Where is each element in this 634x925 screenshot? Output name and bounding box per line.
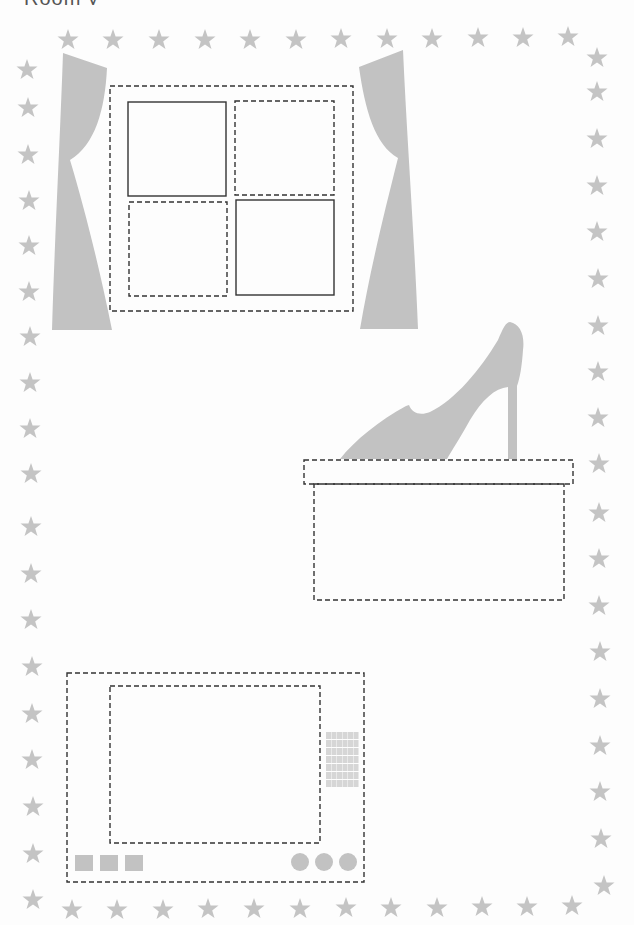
- shoe-box-drawing: [304, 460, 573, 600]
- star-icon: [590, 641, 611, 661]
- star-icon: [21, 463, 42, 483]
- grille-cell: [354, 740, 359, 747]
- grille-cell: [343, 732, 348, 739]
- grille-cell: [326, 740, 331, 747]
- window-drawing: [110, 86, 353, 311]
- star-icon: [19, 190, 40, 210]
- grille-cell: [343, 764, 348, 771]
- star-icon: [594, 875, 615, 895]
- star-icon: [589, 595, 610, 615]
- grille-cell: [332, 748, 337, 755]
- grille-cell: [337, 756, 342, 763]
- grille-cell: [354, 732, 359, 739]
- star-icon: [589, 548, 610, 568]
- star-icon: [23, 843, 44, 863]
- star-icon: [18, 144, 39, 164]
- grille-cell: [337, 772, 342, 779]
- grille-cell: [343, 780, 348, 787]
- grille-cell: [348, 732, 353, 739]
- star-icon: [22, 656, 43, 676]
- grille-cell: [354, 772, 359, 779]
- star-icon: [58, 29, 79, 49]
- high-heel-shoe-icon: [340, 322, 523, 459]
- star-icon: [21, 516, 42, 536]
- grille-cell: [348, 764, 353, 771]
- star-icon: [468, 27, 489, 47]
- star-icon: [422, 28, 443, 48]
- star-icon: [587, 128, 608, 148]
- grille-cell: [354, 748, 359, 755]
- grille-cell: [348, 772, 353, 779]
- tv-knob-icon: [339, 853, 357, 871]
- left-curtain-icon: [52, 53, 112, 330]
- star-icon: [149, 29, 170, 49]
- star-icon: [590, 735, 611, 755]
- window-pane-bottom-left: [129, 202, 227, 296]
- grille-cell: [337, 748, 342, 755]
- star-icon: [240, 29, 261, 49]
- star-icon: [103, 29, 124, 49]
- grille-cell: [332, 772, 337, 779]
- star-icon: [588, 361, 609, 381]
- grille-cell: [343, 772, 348, 779]
- star-icon: [558, 26, 579, 46]
- star-icon: [22, 703, 43, 723]
- grille-cell: [343, 740, 348, 747]
- grille-cell: [326, 780, 331, 787]
- television-drawing: [67, 673, 364, 882]
- star-icon: [589, 453, 610, 473]
- star-icon: [290, 898, 311, 918]
- worksheet-page: Room y: [0, 0, 634, 925]
- star-icon: [244, 898, 265, 918]
- star-icon: [19, 235, 40, 255]
- star-icon: [18, 97, 39, 117]
- grille-cell: [348, 756, 353, 763]
- right-curtain-icon: [359, 50, 418, 329]
- star-icon: [472, 896, 493, 916]
- tv-screen: [110, 686, 320, 843]
- star-icon: [198, 898, 219, 918]
- star-border: [17, 26, 615, 919]
- star-icon: [377, 28, 398, 48]
- grille-cell: [354, 780, 359, 787]
- star-icon: [513, 27, 534, 47]
- star-icon: [22, 749, 43, 769]
- grille-cell: [343, 748, 348, 755]
- tv-square-button-icon: [100, 855, 118, 871]
- star-icon: [381, 897, 402, 917]
- grille-cell: [326, 764, 331, 771]
- star-icon: [286, 29, 307, 49]
- star-icon: [195, 29, 216, 49]
- star-icon: [21, 563, 42, 583]
- grille-cell: [337, 780, 342, 787]
- star-icon: [23, 889, 44, 909]
- grille-cell: [326, 756, 331, 763]
- star-icon: [517, 896, 538, 916]
- grille-cell: [354, 756, 359, 763]
- star-icon: [588, 315, 609, 335]
- window-frame: [110, 86, 353, 311]
- star-icon: [587, 47, 608, 67]
- worksheet-scene: [0, 0, 634, 925]
- star-icon: [19, 281, 40, 301]
- speaker-grille: [326, 732, 359, 787]
- grille-cell: [348, 740, 353, 747]
- star-icon: [588, 407, 609, 427]
- grille-cell: [348, 748, 353, 755]
- star-icon: [153, 899, 174, 919]
- star-icon: [20, 418, 41, 438]
- star-icon: [590, 688, 611, 708]
- grille-cell: [326, 772, 331, 779]
- grille-cell: [332, 740, 337, 747]
- star-icon: [62, 899, 83, 919]
- grille-cell: [337, 764, 342, 771]
- grille-cell: [326, 748, 331, 755]
- grille-cell: [332, 780, 337, 787]
- grille-cell: [337, 732, 342, 739]
- star-icon: [589, 502, 610, 522]
- star-icon: [331, 28, 352, 48]
- grille-cell: [332, 732, 337, 739]
- star-icon: [588, 268, 609, 288]
- star-icon: [23, 796, 44, 816]
- grille-cell: [326, 732, 331, 739]
